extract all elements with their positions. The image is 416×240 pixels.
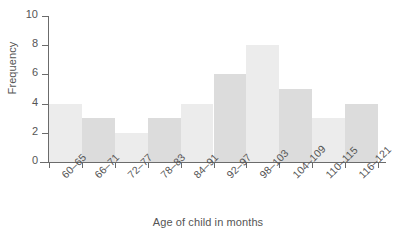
y-axis-tick: 2 [42, 133, 48, 134]
x-axis-tick [49, 162, 50, 168]
histogram-bar [246, 45, 279, 162]
y-axis-tick-label: 0 [8, 154, 38, 166]
x-axis-title: Age of child in months [0, 216, 416, 228]
y-axis-tick: 6 [42, 74, 48, 75]
y-axis-tick-label: 2 [8, 125, 38, 137]
y-axis-tick: 8 [42, 45, 48, 46]
y-axis-tick-label: 8 [8, 37, 38, 49]
y-axis-tick: 4 [42, 104, 48, 105]
y-axis-tick-label: 10 [8, 8, 38, 20]
y-axis-tick: 0 [42, 162, 48, 163]
y-axis-tick: 10 [42, 16, 48, 17]
plot-area: 024681060–6566–7172–7778–8384–9192–9798–… [48, 16, 378, 162]
y-axis-tick-label: 6 [8, 66, 38, 78]
y-axis-tick-label: 4 [8, 96, 38, 108]
histogram-chart: Frequency 024681060–6566–7172–7778–8384–… [0, 0, 416, 240]
bar-group [49, 16, 378, 162]
histogram-bar [214, 74, 247, 162]
